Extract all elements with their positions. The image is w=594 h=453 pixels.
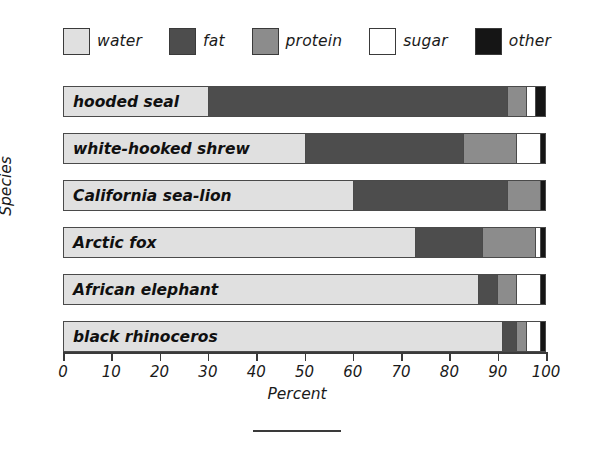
legend-item-fat: fat	[169, 28, 225, 55]
bar-segment-fat	[478, 275, 497, 304]
legend-label: other	[509, 32, 551, 50]
bar-segment-protein	[507, 181, 541, 210]
bar-segment-other	[535, 87, 545, 116]
bar-segment-protein	[482, 228, 535, 257]
x-tick	[208, 352, 210, 361]
bar-segment-other	[540, 134, 545, 163]
bar-segment-fat	[353, 181, 507, 210]
x-tick	[401, 352, 403, 361]
bar-segment-sugar	[526, 322, 540, 351]
legend-item-other: other	[475, 28, 551, 55]
bar-segment-protein	[507, 87, 526, 116]
bar-row: African elephant	[63, 274, 546, 305]
bar-segment-fat	[415, 228, 482, 257]
bar-segment-fat	[502, 322, 516, 351]
x-tick	[160, 352, 162, 361]
bar-row: black rhinoceros	[63, 321, 546, 352]
legend-swatch-icon-other	[475, 28, 502, 55]
legend-item-sugar: sugar	[369, 28, 448, 55]
x-tick	[546, 352, 548, 361]
x-tick	[449, 352, 451, 361]
y-axis-title: Species	[0, 156, 15, 216]
bar-segment-other	[540, 322, 545, 351]
chart-legend: waterfatproteinsugarother	[63, 24, 551, 58]
bar-row: California sea-lion	[63, 180, 546, 211]
bar-segment-protein	[463, 134, 516, 163]
x-tick-label: 10	[102, 363, 121, 381]
x-axis-title: Percent	[0, 385, 594, 403]
legend-swatch-icon-fat	[169, 28, 196, 55]
legend-swatch-icon-protein	[252, 28, 279, 55]
x-tick-label: 80	[440, 363, 459, 381]
x-tick-label: 0	[58, 363, 68, 381]
bar-segment-fat	[208, 87, 506, 116]
x-tick-label: 30	[198, 363, 217, 381]
x-tick	[111, 352, 113, 361]
bar-segment-sugar	[526, 87, 536, 116]
legend-label: sugar	[403, 32, 448, 50]
x-tick-label: 20	[150, 363, 169, 381]
bar-segment-protein	[497, 275, 516, 304]
legend-swatch-icon-water	[63, 28, 90, 55]
bar-segment-water	[64, 134, 305, 163]
bar-segment-sugar	[516, 275, 540, 304]
bar-segment-other	[540, 181, 545, 210]
x-tick	[256, 352, 258, 361]
stacked-bar-plot-area: hooded sealwhite-hooked shrewCalifornia …	[63, 86, 546, 352]
bar-segment-other	[540, 275, 545, 304]
x-tick	[305, 352, 307, 361]
legend-label: fat	[203, 32, 225, 50]
bar-segment-water	[64, 228, 415, 257]
bar-segment-sugar	[516, 134, 540, 163]
x-tick-label: 40	[247, 363, 266, 381]
bar-segment-water	[64, 322, 502, 351]
x-tick-label: 70	[392, 363, 411, 381]
x-tick-label: 50	[295, 363, 314, 381]
legend-label: water	[97, 32, 142, 50]
bar-segment-other	[540, 228, 545, 257]
legend-item-protein: protein	[252, 28, 343, 55]
legend-label: protein	[286, 32, 343, 50]
legend-swatch-icon-sugar	[369, 28, 396, 55]
x-tick	[353, 352, 355, 361]
footer-rule	[253, 430, 341, 432]
bar-row: hooded seal	[63, 86, 546, 117]
bar-row: Arctic fox	[63, 227, 546, 258]
legend-item-water: water	[63, 28, 142, 55]
x-tick	[63, 352, 65, 361]
bar-segment-fat	[305, 134, 464, 163]
x-tick-label: 100	[532, 363, 561, 381]
bar-segment-water	[64, 87, 208, 116]
x-tick	[498, 352, 500, 361]
bar-segment-water	[64, 181, 353, 210]
x-tick-label: 90	[488, 363, 507, 381]
bar-row: white-hooked shrew	[63, 133, 546, 164]
x-tick-label: 60	[343, 363, 362, 381]
bar-segment-water	[64, 275, 478, 304]
bar-segment-protein	[516, 322, 526, 351]
